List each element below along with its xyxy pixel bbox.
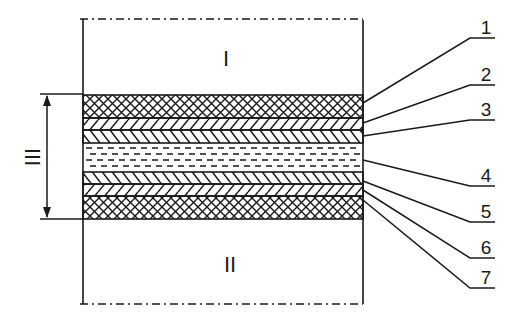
layer-2-hatch-forward (83, 118, 363, 130)
region-label-III: III (20, 148, 45, 166)
layer-number-2: 2 (481, 64, 492, 85)
leader-line-6 (363, 190, 495, 258)
layer-number-3: 3 (481, 99, 492, 120)
layer-3-hatch-backward (83, 130, 363, 143)
layer-7-crosshatch (83, 196, 363, 219)
layer-5-hatch-backward (83, 172, 363, 184)
layer-number-1: 1 (481, 17, 492, 38)
region-label-I: I (223, 46, 229, 71)
leader-lines (363, 38, 495, 288)
region-label-II: II (224, 252, 236, 277)
cross-section-diagram: I II III 1 2 3 4 5 6 7 (0, 0, 521, 314)
frame (80, 19, 363, 304)
layer-1-crosshatch (83, 95, 363, 118)
layer-numbers: 1 2 3 4 5 6 7 (481, 17, 492, 288)
dimension-III (40, 94, 83, 219)
leader-line-3 (363, 120, 495, 136)
layer-number-4: 4 (481, 165, 492, 186)
layer-6-hatch-forward (83, 184, 363, 196)
layer-stack (83, 95, 363, 219)
arrow-down-icon (43, 207, 51, 218)
leader-line-4 (363, 160, 495, 186)
layer-number-7: 7 (481, 267, 492, 288)
layer-4-dashed (86, 148, 360, 166)
layer-number-5: 5 (481, 201, 492, 222)
leader-line-1 (363, 38, 495, 103)
arrow-up-icon (43, 95, 51, 106)
layer-number-6: 6 (481, 237, 492, 258)
leader-line-7 (363, 200, 495, 288)
